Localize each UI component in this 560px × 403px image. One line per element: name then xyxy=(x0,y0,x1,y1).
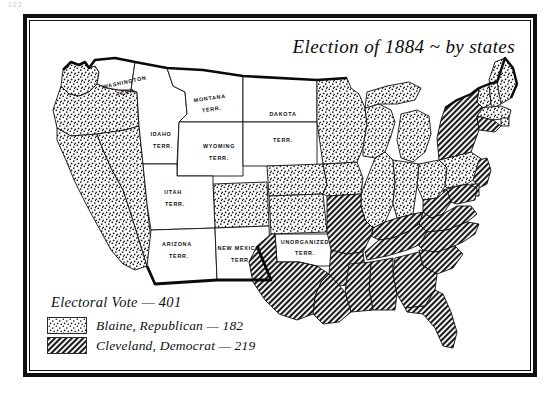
state-iowa xyxy=(323,162,363,196)
legend-total-label: Electoral Vote — 401 xyxy=(51,294,309,311)
label-idaho-terr-2: TERR. xyxy=(153,143,173,149)
legend-swatch-hatch xyxy=(47,337,87,354)
label-arizona-terr: ARIZONA xyxy=(162,241,192,247)
label-wyoming-terr-2: TERR. xyxy=(209,155,229,161)
legend-label-blaine: Blaine, Republican — 182 xyxy=(96,318,243,334)
legend-row-blaine: Blaine, Republican — 182 xyxy=(47,317,309,334)
label-idaho-terr: IDAHO xyxy=(150,131,171,137)
map-figure-frame: Election of 1884 ~ by states xyxy=(23,14,537,377)
state-michigan-lower xyxy=(397,110,431,162)
label-unorganized-terr: UNORGANIZED xyxy=(281,239,329,245)
label-utah-terr: UTAH xyxy=(164,189,182,195)
label-new-mexico-terr: NEW MEXICO xyxy=(218,245,261,251)
state-rhode-island xyxy=(501,118,509,126)
label-arizona-terr-2: TERR. xyxy=(169,253,189,259)
state-alabama xyxy=(369,258,397,310)
territory-dakota-south xyxy=(243,122,317,166)
label-dakota-terr: DAKOTA xyxy=(269,111,296,117)
state-michigan-upper xyxy=(365,82,421,108)
legend: Electoral Vote — 401 Blaine, Republican … xyxy=(47,294,309,357)
state-indiana xyxy=(393,160,419,218)
label-utah-terr-2: TERR. xyxy=(165,201,185,207)
legend-swatch-stipple xyxy=(47,317,87,334)
state-kansas xyxy=(269,194,327,234)
label-unorganized-terr-2: TERR. xyxy=(295,250,315,256)
territory-wyoming xyxy=(177,122,243,176)
state-nebraska xyxy=(267,164,327,196)
state-minnesota xyxy=(317,78,367,164)
state-illinois xyxy=(361,152,395,228)
label-dakota-terr-2: TERR. xyxy=(273,137,293,143)
legend-row-cleveland: Cleveland, Democrat — 219 xyxy=(47,337,309,354)
state-colorado xyxy=(213,182,269,228)
label-wyoming-terr: WYOMING xyxy=(203,143,235,149)
legend-label-cleveland: Cleveland, Democrat — 219 xyxy=(96,338,255,354)
state-wisconsin xyxy=(363,104,395,158)
label-new-mexico-terr-2: TERR. xyxy=(231,257,251,263)
page-number: 122 xyxy=(8,1,23,8)
